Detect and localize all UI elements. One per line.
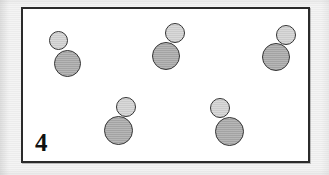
figure-panel: 4: [21, 7, 310, 163]
small-circle: [276, 25, 296, 45]
figure-panel-inner: 4: [23, 9, 308, 161]
small-circle: [49, 31, 68, 50]
large-circle: [54, 50, 81, 77]
small-circle: [116, 97, 136, 117]
small-circle: [165, 23, 185, 43]
small-circle: [210, 98, 230, 118]
large-circle: [262, 43, 290, 71]
figure-number-label: 4: [35, 130, 48, 155]
figure-root: 4: [0, 0, 329, 175]
large-circle: [152, 42, 180, 70]
large-circle: [104, 116, 133, 145]
large-circle: [215, 117, 244, 146]
